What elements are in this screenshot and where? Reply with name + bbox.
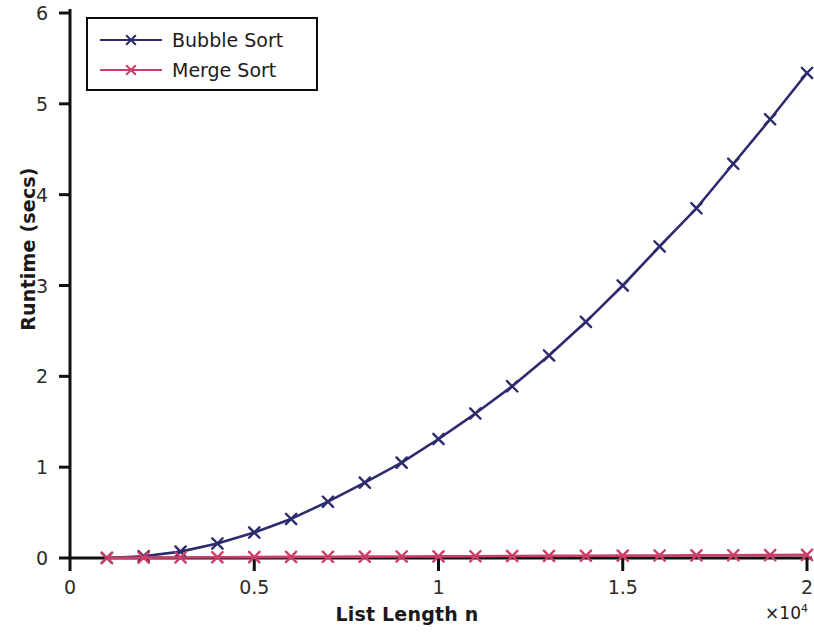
data-series-group	[102, 68, 813, 563]
legend-item-bubble-sort: Bubble Sort	[88, 25, 316, 55]
plot-area	[0, 0, 814, 632]
cross-marker-icon	[654, 241, 664, 251]
legend-label-bubble-sort: Bubble Sort	[172, 29, 283, 51]
cross-marker-icon	[618, 280, 628, 290]
cross-marker-icon	[691, 203, 701, 213]
cross-marker-icon	[470, 408, 480, 418]
cross-marker-icon	[507, 381, 517, 391]
legend-item-merge-sort: Merge Sort	[88, 55, 316, 85]
y-tick-label: 2	[8, 365, 48, 387]
y-tick-label: 5	[8, 93, 48, 115]
legend-box: Bubble Sort Merge Sort	[86, 17, 318, 91]
cross-marker-icon	[124, 33, 139, 48]
cross-marker-icon	[728, 159, 738, 169]
cross-marker-icon	[396, 457, 406, 467]
y-axis-label: Runtime (secs)	[17, 149, 39, 349]
axis-lines	[59, 9, 812, 571]
cross-marker-icon	[802, 68, 812, 78]
x-axis-exponent-power: 4	[801, 602, 808, 615]
x-tick-label: 0	[40, 576, 100, 598]
series-line	[107, 73, 807, 558]
series-bubble-sort	[102, 68, 813, 563]
cross-marker-icon	[360, 477, 370, 487]
cross-marker-icon	[581, 317, 591, 327]
legend-label-merge-sort: Merge Sort	[172, 59, 276, 81]
y-tick-label: 1	[8, 456, 48, 478]
y-tick-label: 6	[8, 2, 48, 24]
chart-figure: 0123456 00.511.52 Runtime (secs) List Le…	[0, 0, 814, 632]
legend-swatch-merge-sort	[100, 61, 162, 79]
x-tick-label: 0.5	[224, 576, 284, 598]
series-merge-sort	[102, 550, 813, 563]
cross-marker-icon	[544, 350, 554, 360]
x-tick-label: 1.5	[593, 576, 653, 598]
y-tick-label: 0	[8, 547, 48, 569]
cross-marker-icon	[323, 496, 333, 506]
cross-marker-icon	[765, 114, 775, 124]
x-tick-label: 2	[777, 576, 814, 598]
cross-marker-icon	[433, 434, 443, 444]
x-tick-label: 1	[409, 576, 469, 598]
x-axis-exponent-prefix: ×10	[765, 603, 801, 623]
cross-marker-icon	[124, 63, 139, 78]
x-axis-exponent: ×104	[765, 602, 808, 623]
legend-swatch-bubble-sort	[100, 31, 162, 49]
x-axis-label: List Length n	[0, 603, 814, 625]
